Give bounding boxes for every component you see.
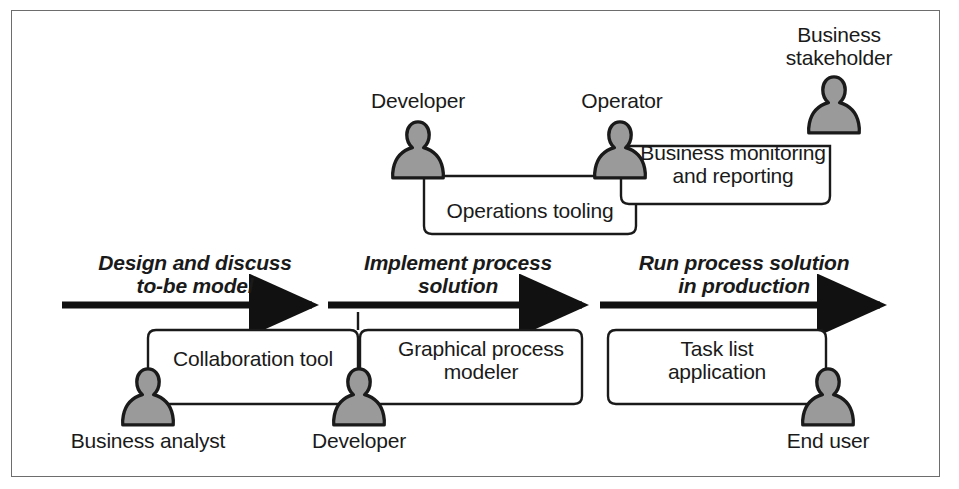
label-role-operator: Operator <box>552 90 692 113</box>
label-tool-graphical-modeler: Graphical process modeler <box>386 338 576 383</box>
label-role-business-analyst: Business analyst <box>68 430 228 453</box>
label-phase-run: Run process solution in production <box>608 252 880 297</box>
label-tool-business-monitoring: Business monitoring and reporting <box>633 142 833 187</box>
label-phase-design: Design and discuss to-be model <box>70 252 320 297</box>
diagram-canvas: Developer Operator Business stakeholder … <box>0 0 959 489</box>
label-tool-operations-tooling: Operations tooling <box>430 200 630 223</box>
label-tool-collaboration: Collaboration tool <box>158 348 348 371</box>
label-role-business-stakeholder: Business stakeholder <box>764 24 914 69</box>
diagram-frame <box>11 10 940 477</box>
label-role-developer-bottom: Developer <box>289 430 429 453</box>
label-role-developer-top: Developer <box>348 90 488 113</box>
label-tool-task-list: Task list application <box>622 338 812 383</box>
label-role-end-user: End user <box>758 430 898 453</box>
label-phase-implement: Implement process solution <box>338 252 578 297</box>
